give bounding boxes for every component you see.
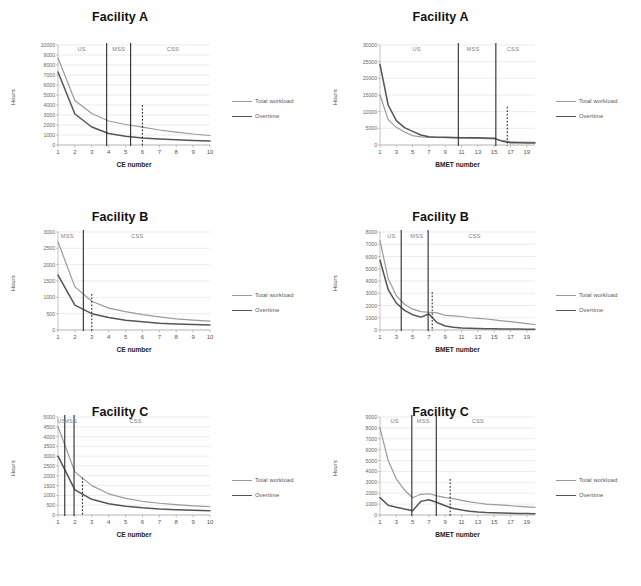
x-tick-label: 5 xyxy=(124,149,127,155)
y-tick-label: 0 xyxy=(22,327,55,333)
x-tick-label: 5 xyxy=(411,334,414,340)
legend-label: Overtime xyxy=(255,492,279,498)
y-tick-label: 7000 xyxy=(344,241,377,247)
y-tick-label: 8000 xyxy=(344,229,377,235)
y-tick-label: 2000 xyxy=(22,262,55,268)
region-label-us: US xyxy=(413,46,421,52)
legend-item-total-workload[interactable]: Total workload xyxy=(232,98,293,104)
legend-swatch-line-icon xyxy=(232,480,252,481)
y-tick-label: 3500 xyxy=(22,443,55,449)
x-tick-label: 11 xyxy=(458,334,464,340)
series-line-total-workload xyxy=(58,427,210,507)
y-tick-label: 10000 xyxy=(344,109,377,115)
x-tick-label: 7 xyxy=(158,519,161,525)
legend-label: Total workload xyxy=(579,477,617,483)
legend-item-overtime[interactable]: Overtime xyxy=(556,492,617,498)
y-tick-label: 4000 xyxy=(344,278,377,284)
x-tick-label: 5 xyxy=(411,519,414,525)
x-tick-label: 17 xyxy=(507,149,514,155)
x-tick-label: 2 xyxy=(73,334,76,340)
x-axis-title: CE number xyxy=(58,346,210,353)
x-tick-label: 13 xyxy=(475,519,482,525)
y-tick-label: 0 xyxy=(344,512,377,518)
x-tick-label: 5 xyxy=(124,519,127,525)
legend-item-total-workload[interactable]: Total workload xyxy=(232,477,293,483)
region-label-mss: MSS xyxy=(64,418,77,424)
legend-label: Total workload xyxy=(255,292,293,298)
y-tick-label: 5000 xyxy=(344,458,377,464)
x-axis-title: CE number xyxy=(58,531,210,538)
x-tick-label: 15 xyxy=(491,149,498,155)
x-tick-label: 8 xyxy=(175,149,178,155)
y-axis-title: Hours xyxy=(332,460,338,476)
y-tick-label: 3000 xyxy=(344,479,377,485)
series-line-overtime xyxy=(380,260,535,329)
x-tick-label: 17 xyxy=(507,519,514,525)
legend-swatch-line-icon xyxy=(556,116,576,117)
y-tick-label: 3000 xyxy=(22,112,55,118)
y-tick-label: 7000 xyxy=(344,436,377,442)
y-tick-label: 4000 xyxy=(22,434,55,440)
x-tick-label: 1 xyxy=(56,519,59,525)
x-axis-title: BMET number xyxy=(380,161,535,168)
x-tick-label: 9 xyxy=(191,334,194,340)
y-tick-label: 5000 xyxy=(344,266,377,272)
y-tick-label: 0 xyxy=(22,142,55,148)
x-tick-label: 1 xyxy=(378,334,381,340)
chart-facility-a-ce: Facility A010002000300040005000600070008… xyxy=(0,0,320,200)
legend-item-overtime[interactable]: Overtime xyxy=(232,492,293,498)
chart-legend: Total workloadOvertime xyxy=(232,477,293,507)
legend-label: Total workload xyxy=(255,98,293,104)
chart-legend: Total workloadOvertime xyxy=(556,477,617,507)
legend-label: Overtime xyxy=(579,307,603,313)
chart-facility-c-ce: Facility C050010001500200025003000350040… xyxy=(0,395,320,586)
region-label-css: CSS xyxy=(472,418,484,424)
legend-swatch-line-icon xyxy=(232,101,252,102)
y-tick-label: 9000 xyxy=(344,414,377,420)
legend-item-total-workload[interactable]: Total workload xyxy=(556,292,617,298)
y-axis-title: Hours xyxy=(10,275,16,291)
x-tick-label: 3 xyxy=(90,334,93,340)
x-tick-label: 7 xyxy=(427,334,430,340)
legend-item-overtime[interactable]: Overtime xyxy=(556,113,617,119)
x-axis-title: BMET number xyxy=(380,531,535,538)
y-tick-label: 0 xyxy=(344,327,377,333)
region-label-mss: MSS xyxy=(112,46,125,52)
x-tick-label: 2 xyxy=(73,519,76,525)
x-tick-label: 19 xyxy=(523,519,530,525)
y-tick-label: 3000 xyxy=(344,290,377,296)
legend-item-overtime[interactable]: Overtime xyxy=(556,307,617,313)
legend-item-total-workload[interactable]: Total workload xyxy=(556,98,617,104)
region-label-us: US xyxy=(77,46,85,52)
legend-swatch-line-icon xyxy=(232,310,252,311)
legend-item-overtime[interactable]: Overtime xyxy=(232,113,293,119)
x-tick-label: 15 xyxy=(491,519,498,525)
x-tick-label: 7 xyxy=(158,334,161,340)
y-tick-label: 5000 xyxy=(22,92,55,98)
y-tick-label: 0 xyxy=(344,142,377,148)
legend-item-total-workload[interactable]: Total workload xyxy=(556,477,617,483)
y-axis-title: Hours xyxy=(10,89,16,105)
x-tick-label: 6 xyxy=(141,519,144,525)
x-tick-label: 10 xyxy=(207,519,214,525)
x-tick-label: 15 xyxy=(491,334,498,340)
legend-item-total-workload[interactable]: Total workload xyxy=(232,292,293,298)
region-label-mss: MSS xyxy=(410,233,423,239)
x-tick-label: 17 xyxy=(507,334,514,340)
series-line-total-workload xyxy=(380,428,535,507)
legend-item-overtime[interactable]: Overtime xyxy=(232,307,293,313)
y-tick-label: 1000 xyxy=(22,294,55,300)
legend-label: Total workload xyxy=(579,292,617,298)
chart-facility-b-bmet: Facility B010002000300040005000600070008… xyxy=(320,200,641,395)
y-tick-label: 2500 xyxy=(22,463,55,469)
y-tick-label: 5000 xyxy=(344,125,377,131)
x-tick-label: 9 xyxy=(191,519,194,525)
y-tick-label: 8000 xyxy=(22,62,55,68)
y-tick-label: 7000 xyxy=(22,72,55,78)
region-label-css: CSS xyxy=(129,418,141,424)
y-tick-label: 6000 xyxy=(344,254,377,260)
y-tick-label: 1000 xyxy=(22,132,55,138)
y-tick-label: 3000 xyxy=(22,229,55,235)
legend-swatch-line-icon xyxy=(232,495,252,496)
chart-facility-b-ce: Facility B050010001500200025003000123456… xyxy=(0,200,320,395)
